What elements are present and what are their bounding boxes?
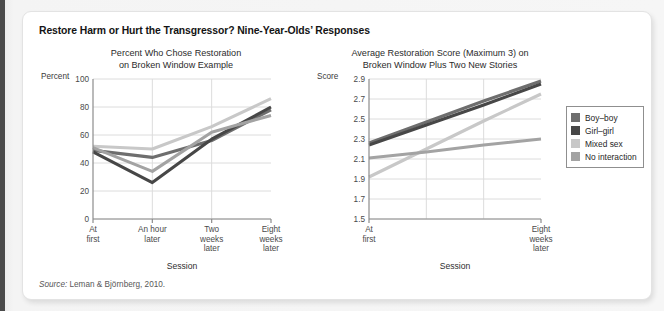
chart-left-ytick: 40 <box>80 159 89 168</box>
chart-left-ytick: 60 <box>80 131 89 140</box>
legend-label-girl-girl: Girl–girl <box>585 126 614 136</box>
legend-item: No interaction <box>571 150 637 163</box>
chart-right-title-line1: Average Restoration Score (Maximum 3) on <box>319 48 561 60</box>
legend-swatch-boy-boy <box>571 113 580 122</box>
figure-root: Restore Harm or Hurt the Transgressor? N… <box>0 0 664 311</box>
chart-right-ytick: 1.9 <box>354 175 365 184</box>
legend-label-mixed-sex: Mixed sex <box>585 139 623 149</box>
chart-left-title-line2: on Broken Window Example <box>41 60 311 72</box>
chart-left-ytick: 20 <box>80 187 89 196</box>
chart-right-title: Average Restoration Score (Maximum 3) on… <box>319 48 561 71</box>
legend-swatch-girl-girl <box>571 126 580 135</box>
legend-item: Mixed sex <box>571 137 637 150</box>
figure-card: Restore Harm or Hurt the Transgressor? N… <box>22 11 652 300</box>
chart-left-xtick-label: Atfirst <box>66 225 120 244</box>
legend-item: Girl–girl <box>571 124 637 137</box>
chart-left-title: Percent Who Chose Restoration on Broken … <box>41 48 311 71</box>
chart-right-ytick: 2.1 <box>354 155 365 164</box>
chart-right-ytick: 2.5 <box>354 115 365 124</box>
legend-label-boy-boy: Boy–boy <box>585 113 618 123</box>
chart-right-xlabel: Session <box>369 261 541 271</box>
chart-right-ytick: 1.5 <box>354 215 365 224</box>
legend-swatch-mixed-sex <box>571 139 580 148</box>
chart-right-ytick: 1.7 <box>354 195 365 204</box>
legend-label-no-interaction: No interaction <box>585 152 637 162</box>
chart-right-ytick: 2.3 <box>354 135 365 144</box>
chart-left-xtick-label: Eightweekslater <box>244 225 298 254</box>
legend-swatch-no-interaction <box>571 152 580 161</box>
page-edge-rail <box>0 0 5 311</box>
source-text: Leman & Björnberg, 2010. <box>70 280 166 289</box>
legend: Boy–boy Girl–girl Mixed sex No interacti… <box>566 106 644 168</box>
chart-right-xtick-label: Atfirst <box>342 225 396 244</box>
chart-left-ytick: 0 <box>84 215 89 224</box>
chart-left-ytick: 80 <box>80 103 89 112</box>
chart-left-ytick: 100 <box>75 75 89 84</box>
chart-right-ytick: 2.7 <box>354 95 365 104</box>
figure-title: Restore Harm or Hurt the Transgressor? N… <box>39 25 370 36</box>
chart-panel-left: Percent Who Chose Restoration on Broken … <box>41 48 311 71</box>
chart-left-xtick-label: Twoweekslater <box>185 225 239 254</box>
chart-right-xtick-label: Eightweekslater <box>514 225 568 254</box>
source-note: Source: Leman & Björnberg, 2010. <box>39 280 165 289</box>
chart-left-title-line1: Percent Who Chose Restoration <box>41 48 311 60</box>
chart-panel-right: Average Restoration Score (Maximum 3) on… <box>311 48 561 71</box>
source-label: Source: <box>39 280 67 289</box>
chart-right-ytick: 2.9 <box>354 75 365 84</box>
chart-right-title-line2: Broken Window Plus Two New Stories <box>319 60 561 72</box>
legend-item: Boy–boy <box>571 111 637 124</box>
chart-left-xtick-label: An hourlater <box>125 225 179 244</box>
chart-left-xlabel: Session <box>93 261 271 271</box>
